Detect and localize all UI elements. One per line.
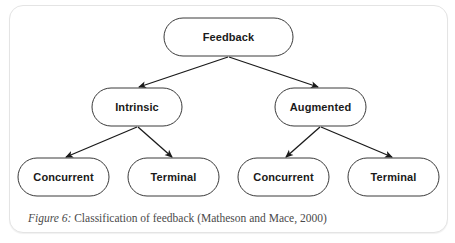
node-augmented-terminal: Terminal [348, 158, 439, 196]
edge-feedback-augmented [229, 57, 318, 87]
node-label-augmented: Augmented [290, 101, 351, 113]
node-label-intrinsic-terminal: Terminal [151, 171, 197, 183]
node-label-augmented-concurrent: Concurrent [253, 171, 314, 183]
node-label-augmented-terminal: Terminal [371, 171, 417, 183]
caption-text: Classification of feedback (Matheson and… [71, 212, 326, 224]
node-feedback: Feedback [164, 18, 293, 56]
feedback-classification-diagram: Feedback Intrinsic Augmented Concurrent … [0, 0, 455, 243]
edge-intrinsic-concurrent [66, 127, 137, 157]
node-intrinsic-concurrent: Concurrent [18, 158, 109, 196]
node-intrinsic-terminal: Terminal [128, 158, 219, 196]
edge-intrinsic-terminal [138, 127, 172, 157]
edge-augmented-terminal [321, 127, 392, 157]
edge-feedback-intrinsic [139, 57, 228, 87]
figure-caption: Figure 6: Classification of feedback (Ma… [28, 212, 327, 224]
node-augmented: Augmented [275, 88, 366, 126]
node-label-intrinsic-concurrent: Concurrent [33, 171, 94, 183]
node-augmented-concurrent: Concurrent [238, 158, 329, 196]
node-intrinsic: Intrinsic [92, 88, 182, 126]
edge-augmented-concurrent [286, 127, 320, 157]
node-label-intrinsic: Intrinsic [115, 101, 159, 113]
figure-label: Figure 6: [28, 212, 71, 224]
node-label-feedback: Feedback [203, 31, 255, 43]
